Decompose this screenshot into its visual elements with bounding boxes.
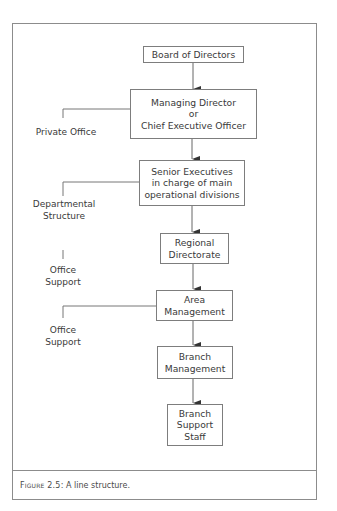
node-label: Directorate — [161, 249, 228, 261]
node-label: Management — [158, 363, 232, 375]
node-regional-directorate: Regional Directorate — [160, 233, 229, 264]
node-label: Staff — [168, 431, 222, 443]
node-branch-support-staff: Branch Support Staff — [167, 404, 223, 446]
node-label: Support — [168, 419, 222, 431]
node-label: Branch — [158, 351, 232, 363]
node-label: Area — [157, 294, 232, 306]
figure-caption: Figure 2.5: A line structure. — [20, 481, 130, 490]
node-label: Regional — [161, 237, 228, 249]
side-connector-departmental — [63, 182, 139, 196]
node-label: or — [131, 108, 256, 120]
side-connector-private-office — [63, 109, 130, 118]
node-label: Management — [157, 306, 232, 318]
side-label-text: Departmental — [26, 199, 102, 211]
side-label-text: Office — [33, 265, 93, 277]
node-managing-director: Managing Director or Chief Executive Off… — [130, 89, 257, 139]
side-label-text: Office — [33, 325, 93, 337]
node-label: operational divisions — [140, 189, 244, 201]
node-label: Senior Executives — [140, 166, 244, 178]
node-branch-management: Branch Management — [157, 346, 233, 379]
side-label-text: Structure — [26, 211, 102, 223]
side-label-private-office: Private Office — [28, 127, 104, 139]
caption-label: Figure 2.5: — [20, 481, 64, 490]
side-label-text: Support — [33, 277, 93, 289]
node-label: Managing Director — [131, 97, 256, 109]
node-area-management: Area Management — [156, 290, 233, 321]
node-senior-executives: Senior Executives in charge of main oper… — [139, 160, 245, 206]
node-label: Branch — [168, 408, 222, 420]
side-label-text: Support — [33, 337, 93, 349]
side-label-departmental-structure: Departmental Structure — [26, 199, 102, 222]
side-connector-office-support-2 — [63, 306, 156, 318]
side-label-text: Private Office — [28, 127, 104, 139]
node-board-of-directors: Board of Directors — [143, 46, 244, 63]
side-label-office-support-2: Office Support — [33, 325, 93, 348]
node-label: Board of Directors — [144, 49, 243, 61]
side-label-office-support-1: Office Support — [33, 265, 93, 288]
caption-text: A line structure. — [64, 481, 130, 490]
node-label: Chief Executive Officer — [131, 120, 256, 132]
node-label: in charge of main — [140, 177, 244, 189]
